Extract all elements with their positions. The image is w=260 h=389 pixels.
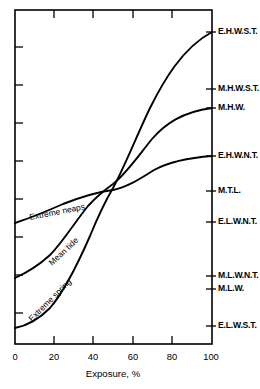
top-axis-ticks (54, 10, 172, 18)
curve-label-extreme-spring: Extreme spring (26, 276, 73, 323)
plot-frame (15, 10, 212, 344)
level-label-elwnt: E.L.W.N.T. (218, 216, 257, 226)
level-label-mtl: M.T.L. (218, 185, 241, 195)
left-axis-ticks (15, 47, 23, 313)
level-label-ehwnt: E.H.W.N.T. (218, 150, 258, 160)
x-tick-label-80: 80 (167, 351, 177, 362)
tidal-exposure-chart: E.H.W.S.T. M.H.W.S.T. M.H.W. E.H.W.N.T. … (0, 0, 260, 389)
level-label-elwst: E.L.W.S.T. (218, 320, 257, 330)
x-tick-label-60: 60 (128, 351, 138, 362)
x-tick-labels: 0 20 40 60 80 100 (12, 351, 218, 362)
x-tick-label-20: 20 (49, 351, 59, 362)
chart-canvas: E.H.W.S.T. M.H.W.S.T. M.H.W. E.H.W.N.T. … (0, 0, 260, 389)
curve-extreme-spring (15, 32, 212, 328)
level-label-mhwst: M.H.W.S.T. (218, 83, 259, 93)
x-tick-label-100: 100 (203, 351, 219, 362)
x-tick-label-40: 40 (88, 351, 98, 362)
level-label-mhw: M.H.W. (218, 102, 245, 112)
x-tick-label-0: 0 (12, 351, 17, 362)
right-axis-level-ticks (206, 32, 216, 326)
right-axis-level-labels: E.H.W.S.T. M.H.W.S.T. M.H.W. E.H.W.N.T. … (218, 26, 259, 330)
curve-mean-tide (15, 108, 212, 278)
level-label-mlw: M.L.W. (218, 283, 244, 293)
level-label-mlwnt: M.L.W.N.T. (218, 270, 259, 280)
x-axis-title: Exposure, % (86, 368, 141, 379)
bottom-axis-ticks (54, 336, 172, 344)
level-label-ehwst: E.H.W.S.T. (218, 26, 258, 36)
